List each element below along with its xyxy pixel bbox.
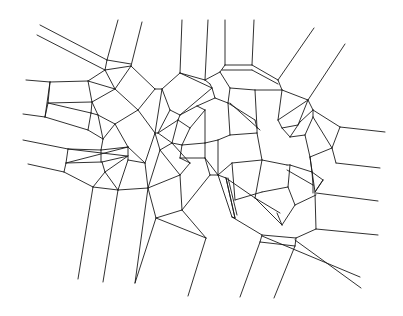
mesh-edge [105, 66, 131, 70]
mesh-edge [28, 164, 64, 172]
mesh-edge [295, 195, 316, 205]
mesh-edge [312, 172, 323, 180]
mesh-edge [131, 22, 142, 66]
mesh-edge [155, 133, 160, 150]
mesh-edge [205, 72, 220, 80]
mesh-edge [288, 187, 295, 205]
mesh-edge [316, 229, 378, 235]
mesh-edge [228, 88, 230, 103]
mesh-edge [218, 163, 232, 175]
mesh-edge [48, 103, 91, 113]
mesh-edge [205, 158, 218, 175]
mesh-edge [296, 229, 316, 238]
mesh-edge [107, 20, 118, 60]
mesh-edge [278, 28, 314, 80]
mesh-edge [252, 20, 254, 65]
mesh-edge [332, 127, 340, 148]
mesh-edge [160, 143, 172, 150]
mesh-edge [88, 113, 91, 130]
mesh-edge [228, 103, 230, 135]
mesh-edge [220, 72, 230, 88]
mesh-edge [145, 163, 148, 188]
mesh-edge [50, 81, 88, 82]
mesh-edge [162, 89, 170, 110]
mesh-edge [91, 102, 92, 113]
mesh-edge [138, 110, 155, 133]
mesh-edge [180, 20, 182, 73]
mesh-edge [197, 98, 215, 106]
mesh-edge [160, 150, 180, 175]
mesh-edge [308, 100, 313, 110]
mesh-edge [295, 238, 296, 246]
mesh-edge [40, 25, 107, 60]
mesh-edge [278, 100, 308, 120]
mesh-edge [278, 80, 282, 90]
mesh-edge [278, 90, 282, 120]
mesh-edge [93, 187, 118, 190]
mesh-edge [230, 88, 255, 90]
mesh-edge [282, 90, 308, 100]
mesh-edge [262, 187, 288, 192]
mesh-edge [182, 143, 205, 145]
mesh-edge [290, 122, 300, 137]
mesh-edge [115, 110, 138, 124]
mesh-edge [315, 180, 323, 192]
mesh-edge [180, 175, 182, 210]
mesh-edge [88, 130, 103, 139]
mesh-edge [37, 35, 105, 70]
mesh-edge [156, 218, 206, 238]
mesh-edge [305, 135, 310, 157]
mesh-edge [103, 124, 115, 139]
mesh-edge [282, 128, 290, 137]
mesh-edge [288, 165, 290, 187]
mesh-edge [340, 127, 385, 132]
mesh-edge [182, 210, 206, 238]
mesh-edge [115, 66, 131, 89]
mesh-edge [170, 110, 180, 115]
mesh-edge [88, 70, 105, 81]
mesh-edge [98, 115, 115, 124]
mesh-edge [158, 133, 172, 143]
mesh-edge [295, 240, 361, 288]
mesh-edge [135, 218, 156, 283]
mesh-edge [178, 120, 190, 128]
mesh-edge [212, 88, 215, 98]
mesh-edge [240, 242, 260, 297]
mesh-edge [64, 163, 66, 172]
mesh-edge [190, 110, 205, 128]
mesh-edge [182, 175, 210, 210]
mesh-edge [180, 163, 190, 175]
mesh-edge [308, 44, 345, 100]
mesh-edge [315, 193, 316, 229]
mesh-edge [148, 175, 180, 188]
mesh-edge [282, 125, 298, 128]
mesh-edge [88, 81, 92, 102]
mesh-edge [178, 115, 180, 120]
mesh-edge [262, 235, 296, 238]
mesh-edge [332, 148, 336, 163]
mesh-edge [310, 157, 315, 192]
mesh-edge [64, 172, 93, 187]
mesh-edge [102, 162, 105, 172]
mesh-edge [92, 89, 115, 102]
mesh-edge [115, 124, 128, 147]
mesh-edge [98, 115, 103, 139]
mesh-edge [232, 217, 262, 235]
mesh-edge [118, 160, 128, 190]
mesh-edge [180, 158, 190, 163]
mesh-edge [188, 238, 206, 296]
mesh-edge [277, 213, 282, 225]
mesh-edge [180, 145, 182, 158]
mesh-edge [105, 172, 118, 190]
mesh-edge [215, 98, 228, 103]
mesh-edge [290, 165, 312, 172]
mesh-edge [257, 133, 262, 160]
mesh-edge [145, 133, 155, 163]
mesh-edge [313, 117, 332, 148]
mesh-edge [218, 135, 230, 140]
mesh-edge [105, 60, 107, 70]
mesh-edge [45, 117, 88, 130]
mesh-edge [162, 73, 180, 89]
voronoi-diagram [0, 0, 403, 316]
mesh-edge [115, 89, 138, 110]
